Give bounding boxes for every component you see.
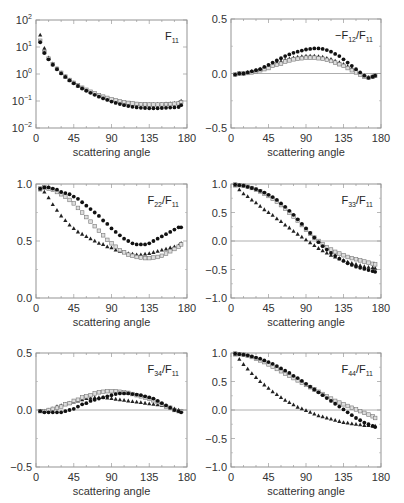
x-tick-label: 90 [105,471,117,483]
data-point [362,74,366,78]
data-point [110,393,114,397]
data-point [51,63,55,67]
data-point [291,403,295,407]
data-point [47,186,51,190]
data-point [296,50,300,54]
data-point [114,397,118,401]
data-point [84,204,88,208]
data-point [118,233,122,237]
data-point [105,244,109,248]
y-tick-label: −0.5 [205,264,227,276]
data-point [321,47,325,51]
series-triangle [38,33,183,106]
data-point [316,413,320,417]
data-point [300,379,304,383]
panel-label: F33/F11 [341,194,373,208]
data-point [296,232,300,236]
data-point [80,211,84,215]
data-point [233,183,237,187]
data-point [308,410,312,414]
y-tick-label: 0.5 [17,235,32,247]
data-point [89,220,93,224]
data-point [313,56,317,60]
data-point [72,202,76,206]
data-point [93,398,97,402]
data-point [287,209,291,213]
data-point [316,246,320,250]
data-point [279,366,283,370]
data-point [151,402,155,406]
data-point [64,403,68,407]
data-point [250,69,254,73]
data-point [135,255,139,259]
data-point [110,100,114,104]
x-tick-label: 135 [140,302,158,314]
data-point [179,243,183,247]
data-point [279,201,283,205]
x-tick-label: 135 [334,132,352,144]
data-point [271,213,275,217]
data-point [367,76,371,80]
data-point [362,421,366,425]
panels-group: 0459013518010−210−1100101102scattering a… [10,13,390,497]
data-point [88,236,92,240]
data-point [333,52,337,56]
data-point [51,407,55,411]
data-point [300,56,304,60]
y-tick-label: 1.0 [212,178,227,190]
data-point [346,410,350,414]
data-point [291,229,295,233]
data-point [59,214,63,218]
data-point [362,267,366,271]
y-tick-label: −1.0 [205,292,227,304]
data-point [47,410,51,414]
data-point [367,422,371,426]
data-point [147,103,151,107]
data-point [93,239,97,243]
panel-label: −F12/F11 [335,29,373,43]
data-point [283,60,287,64]
data-point [354,422,358,426]
data-point [246,353,250,357]
data-point [341,420,345,424]
data-point [168,102,172,106]
x-tick-label: 45 [262,471,274,483]
data-point [80,87,84,91]
data-point [76,84,80,88]
x-tick-label: 180 [178,132,196,144]
data-point [233,73,237,77]
data-point [179,103,183,107]
data-point [101,242,105,246]
data-point [76,405,80,409]
data-point [358,266,362,270]
x-tick-label: 90 [300,471,312,483]
data-point [258,67,262,71]
data-point [38,33,42,37]
data-point [118,248,122,252]
data-point [275,198,279,202]
data-point [160,106,164,110]
data-point [143,106,147,110]
panel-f12: 04590135180−0.50.00.5scattering angle−F1… [205,13,390,158]
data-point [312,236,316,240]
data-point [354,257,358,261]
data-point [118,102,122,106]
data-point [72,399,76,403]
x-tick-label: 45 [262,302,274,314]
data-point [241,191,245,195]
data-point [308,56,312,60]
data-point [337,405,341,409]
data-point [59,190,63,194]
data-point [367,268,371,272]
x-tick-label: 135 [140,132,158,144]
y-tick-label: 0.5 [212,207,227,219]
data-point [367,413,371,417]
data-point [126,239,130,243]
data-point [342,57,346,61]
data-point [333,418,337,422]
data-point [126,253,130,257]
data-point [80,200,84,204]
data-point [321,244,325,248]
data-point [279,62,283,66]
data-point [173,105,177,109]
